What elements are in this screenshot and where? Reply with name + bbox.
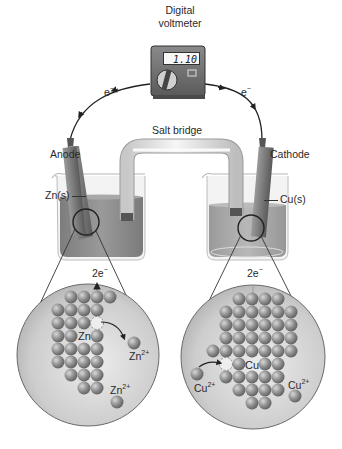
- electron-label-right: e−: [241, 87, 251, 98]
- anode-electrons-label: 2e−: [92, 268, 108, 279]
- wire-right: [205, 84, 262, 140]
- electron-label-left: e−: [104, 87, 114, 98]
- cathode-zoom-view: [181, 285, 325, 429]
- deposit-site: [220, 358, 233, 371]
- cu-atom-label: Cu: [245, 360, 259, 371]
- zn-atom-label: Zn: [78, 331, 91, 342]
- vacancy: [91, 317, 104, 330]
- zn-ion: [128, 337, 141, 350]
- salt-bridge-label: Salt bridge: [152, 125, 202, 136]
- bridge-plug-right: [230, 208, 242, 216]
- zn-ion-label-1: Zn2+: [129, 351, 149, 362]
- cu-ion: [191, 368, 204, 381]
- cathode-electrons-label: 2e−: [247, 268, 263, 279]
- cu-ion-label-1: Cu2+: [194, 383, 215, 394]
- zn-ion-label-2: Zn2+: [110, 385, 130, 396]
- cu-electrode-label: Cu(s): [264, 194, 306, 205]
- alligator-clip-right: [259, 138, 266, 148]
- voltmeter-label: Digital voltmeter: [150, 5, 210, 28]
- voltmeter-display: 1.10: [163, 52, 200, 65]
- bridge-plug-left: [121, 213, 133, 221]
- zn-electrode-label: Zn(s): [45, 190, 86, 201]
- cathode-label: Cathode: [270, 149, 310, 160]
- zn-ion: [111, 396, 124, 409]
- cu-ion-label-2: Cu2+: [288, 380, 309, 391]
- anode-label: Anode: [50, 149, 80, 160]
- cu-ion: [289, 390, 302, 403]
